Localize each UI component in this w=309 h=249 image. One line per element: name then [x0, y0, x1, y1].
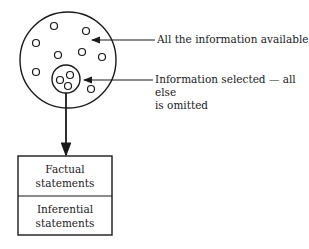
factual-statements-line2: statements [18, 176, 112, 190]
all-information-text: All the information available [157, 33, 308, 45]
information-item [51, 23, 58, 30]
factual-statements-line1: Factual [18, 162, 112, 176]
information-item [33, 40, 40, 47]
information-item [83, 28, 90, 35]
selected-information-text-line1: Information selected — all else [155, 73, 309, 99]
information-item [88, 86, 95, 93]
all-information-label: All the information available [157, 33, 308, 46]
information-item [79, 49, 86, 56]
selected-item [57, 77, 64, 84]
factual-statements-cell: Factual statements [18, 162, 112, 190]
information-item [33, 69, 40, 76]
selected-item [65, 83, 72, 90]
selected-item [67, 72, 74, 79]
selected-information-text-line2: is omitted [155, 99, 309, 112]
information-item [55, 52, 62, 59]
inferential-statements-line1: Inferential [18, 202, 112, 216]
inferential-statements-cell: Inferential statements [18, 202, 112, 230]
information-items [33, 23, 106, 93]
information-item [99, 54, 106, 61]
selected-information-label: Information selected — all else is omitt… [155, 73, 309, 112]
selected-items [57, 72, 74, 90]
inferential-statements-line2: statements [18, 216, 112, 230]
